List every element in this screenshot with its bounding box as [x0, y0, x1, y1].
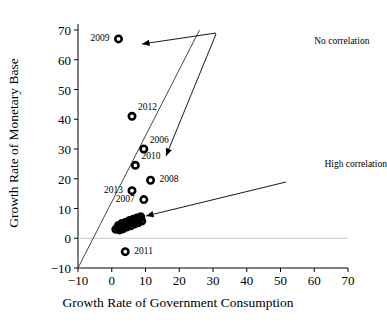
x-tick-label: 0 — [109, 274, 116, 287]
y-tick-label: 30 — [58, 143, 71, 156]
y-tick-label: 20 — [58, 172, 71, 185]
y-tick-label: 50 — [58, 83, 71, 96]
high-correlation-arrow-head — [146, 211, 154, 217]
point-label-2009: 2009 — [91, 34, 110, 44]
point-label-2010: 2010 — [141, 153, 160, 163]
trend-line-group — [78, 30, 200, 268]
data-point-marker-2008 — [147, 177, 153, 183]
no-correlation-arrow-to-2009-head — [142, 40, 150, 46]
y-axis-title: Growth Rate of Monetary Base — [7, 58, 21, 227]
x-tick-label: 60 — [308, 274, 321, 287]
x-tick-label: 10 — [139, 274, 152, 287]
x-tick-label: 40 — [240, 274, 253, 287]
y-tick-label: 0 — [65, 232, 72, 245]
y-tick-label: 70 — [58, 24, 71, 37]
data-point-marker-2011 — [122, 248, 128, 254]
x-tick-label: 70 — [342, 274, 355, 287]
point-label-2012: 2012 — [138, 104, 157, 114]
point-label-2006: 2006 — [150, 136, 169, 146]
data-point-marker-2007 — [141, 196, 147, 202]
no-correlation-arrow-to-2009 — [142, 33, 216, 44]
point-label-2011: 2011 — [134, 247, 153, 257]
x-axis-title: Growth Rate of Government Consumption — [63, 296, 294, 310]
x-tick-label: 20 — [173, 274, 186, 287]
annotation-text-high-correlation: High correlation — [324, 161, 387, 171]
data-point-marker-2009 — [115, 36, 121, 42]
trend-line — [78, 30, 200, 268]
high-correlation-arrow — [146, 182, 286, 216]
x-tick-label: 30 — [207, 274, 220, 287]
x-tick-label: −10 — [68, 274, 88, 287]
y-tick-label: 10 — [58, 202, 71, 215]
no-correlation-arrow-to-cluster-top — [166, 34, 216, 156]
no-correlation-arrow-to-cluster-top-head — [166, 148, 172, 156]
y-tick-label: −10 — [51, 262, 71, 275]
y-tick-label: 60 — [58, 53, 71, 66]
data-point-marker-2012 — [129, 113, 135, 119]
x-tick-label: 50 — [274, 274, 287, 287]
axes-group — [74, 24, 348, 272]
cluster-points-group — [113, 214, 145, 233]
data-point-marker-2010 — [132, 162, 138, 168]
point-label-2007: 2007 — [116, 195, 135, 205]
annotation-text-no-correlation: No correlation — [314, 37, 369, 47]
point-label-2008: 2008 — [160, 175, 179, 185]
annotation-arrows-group — [142, 33, 286, 217]
y-tick-label: 40 — [58, 113, 71, 126]
